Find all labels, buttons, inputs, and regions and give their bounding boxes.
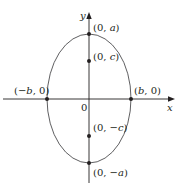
vertex-top-dot [87,32,91,36]
point-labels: (0, a) (0, c) (−b, 0) (b, 0) (0, −c) (0,… [14,22,161,178]
origin-label: 0 [81,102,87,113]
focus-bottom-dot [87,134,91,138]
y-axis-arrow-icon [86,12,91,19]
y-axis-label: y [79,10,86,21]
ellipse-diagram: x y 0 (0, a) (0, c) (−b, 0) (b, 0) [0,0,179,191]
ellipse-diagram-canvas: x y 0 (0, a) (0, c) (−b, 0) (b, 0) [0,0,179,191]
vertex-bottom-label: (0, −a) [93,167,128,178]
vertex-bottom-dot [87,161,91,165]
focus-bottom-label: (0, −c) [93,122,128,133]
covertex-right-dot [129,97,133,101]
covertex-right-label: (b, 0) [134,85,161,96]
x-axis-arrow-icon [168,96,175,101]
x-axis-label: x [167,102,173,113]
covertex-left-label: (−b, 0) [14,85,49,96]
focus-top-dot [87,59,91,63]
covertex-left-dot [45,97,49,101]
focus-top-label: (0, c) [93,51,119,62]
vertex-top-label: (0, a) [93,22,120,33]
y-axis: y [79,10,92,183]
